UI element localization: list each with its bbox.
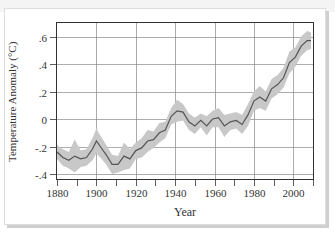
x-tick-label: 1920 <box>126 187 149 199</box>
y-tick-label: .2 <box>39 87 47 99</box>
uncertainty-band <box>57 31 311 174</box>
y-axis-label: Temperature Anomaly (°C) <box>6 42 18 162</box>
plot-frame <box>57 23 314 180</box>
y-axis-ticks: -.4-.20.2.4.6 <box>35 32 57 181</box>
gridlines <box>57 22 313 180</box>
x-tick-label: 2000 <box>283 187 306 199</box>
y-tick-label: 0 <box>42 114 48 126</box>
x-axis-ticks: 1880190019201940196019802000 <box>47 180 314 199</box>
y-tick-label: .4 <box>39 59 48 71</box>
x-axis-label: Year <box>155 205 215 220</box>
y-tick-label: -.4 <box>35 169 47 181</box>
x-tick-label: 1960 <box>205 187 228 199</box>
x-tick-label: 1900 <box>86 187 109 199</box>
x-tick-label: 1880 <box>47 187 70 199</box>
chart-svg: 1880190019201940196019802000 -.4-.20.2.4… <box>0 0 335 236</box>
x-tick-label: 1980 <box>244 187 267 199</box>
y-tick-label: .6 <box>39 32 48 44</box>
y-tick-label: -.2 <box>35 142 47 154</box>
x-tick-label: 1940 <box>165 187 188 199</box>
